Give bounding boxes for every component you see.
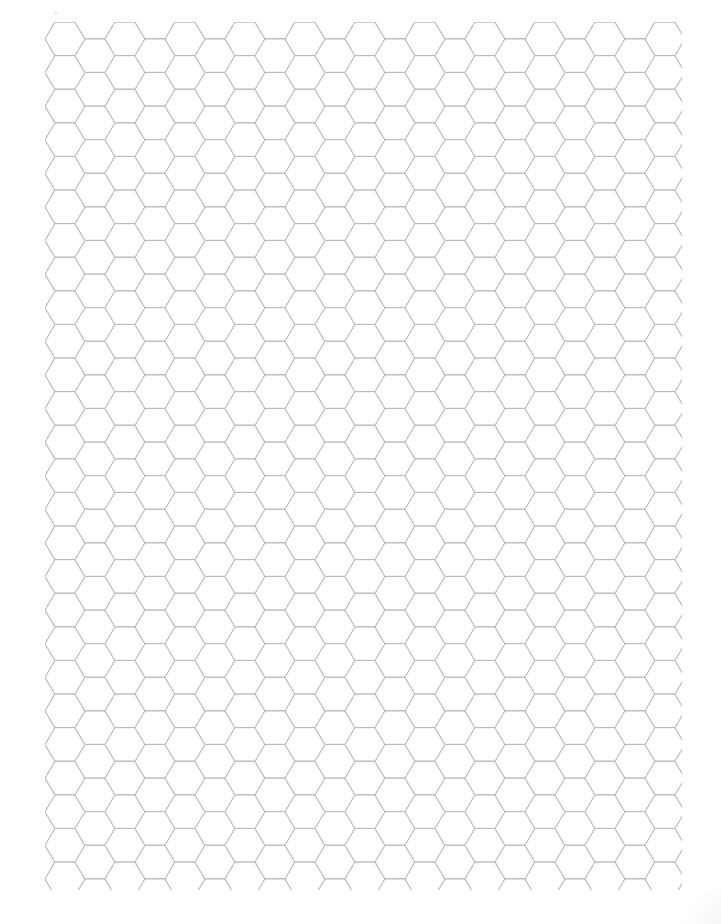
graph-paper-page bbox=[0, 0, 721, 924]
hexagon-grid-svg bbox=[45, 22, 682, 890]
hexagon-grid bbox=[45, 22, 682, 890]
hexagon-cell-lines bbox=[45, 22, 682, 890]
corner-shade-artifact bbox=[675, 890, 721, 924]
scan-speck-artifact bbox=[53, 11, 58, 15]
